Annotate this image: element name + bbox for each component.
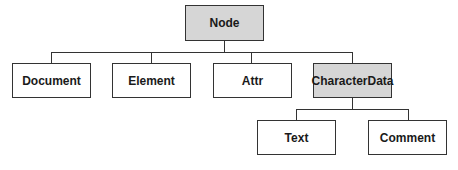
- connector-text: [296, 109, 297, 120]
- node-label: Comment: [380, 131, 435, 145]
- node-box-comment: Comment: [368, 120, 447, 155]
- connector-characterdata: [352, 52, 353, 63]
- connector-attr: [251, 52, 252, 63]
- node-label: Text: [285, 131, 309, 145]
- connector-root-down: [224, 41, 225, 52]
- connector-comment: [408, 109, 409, 120]
- node-box-attr: Attr: [213, 63, 292, 98]
- node-label: CharacterData: [311, 74, 393, 88]
- node-label: Element: [128, 74, 175, 88]
- node-box-node: Node: [185, 5, 264, 41]
- node-box-characterdata: CharacterData: [313, 63, 392, 98]
- connector-level1-bar: [51, 52, 353, 53]
- node-label: Attr: [242, 74, 263, 88]
- connector-element: [151, 52, 152, 63]
- node-label: Node: [210, 16, 240, 30]
- connector-characterdata-down: [352, 98, 353, 109]
- node-box-document: Document: [12, 63, 91, 98]
- node-label: Document: [22, 74, 81, 88]
- node-box-text: Text: [257, 120, 336, 155]
- connector-level2-bar: [296, 109, 409, 110]
- connector-document: [51, 52, 52, 63]
- node-box-element: Element: [112, 63, 191, 98]
